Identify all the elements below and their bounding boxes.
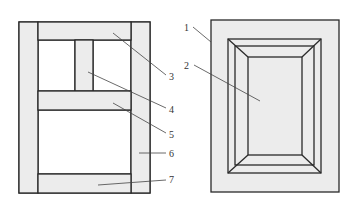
label-5: 5 [169,129,174,140]
left-frame-diagram [19,22,150,193]
label-4: 4 [169,104,174,115]
vertical-mullion [75,40,93,91]
label-1: 1 [184,22,189,33]
middle-rail [38,91,131,110]
right-panel-diagram [211,20,339,192]
center-panel [248,57,302,155]
label-3: 3 [169,71,174,82]
label-2: 2 [184,60,189,71]
lower-opening [38,110,131,174]
right-stile [131,22,150,193]
leader-1 [193,27,211,42]
diagram-canvas: 3 4 5 6 7 1 2 [0,0,355,208]
label-7: 7 [169,174,174,185]
label-6: 6 [169,148,174,159]
top-rail [38,22,131,40]
upper-left-opening [38,40,75,91]
left-stile [19,22,38,193]
